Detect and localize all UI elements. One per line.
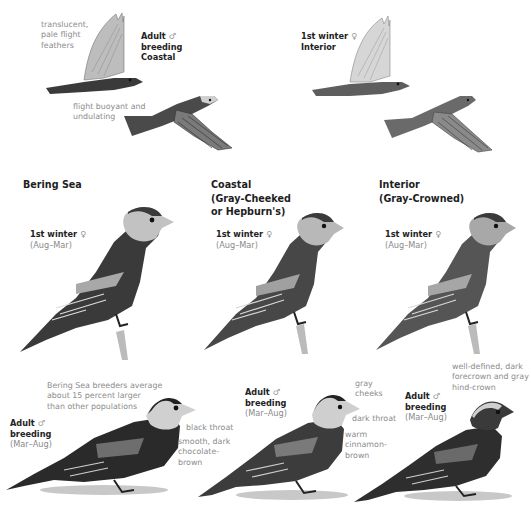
label-bering-adult-male-breeding: Adult ♂ breeding (Mar–Aug) (10, 418, 52, 450)
female-symbol-icon: ♀ (266, 229, 272, 239)
label-coastal-adult-male-breeding: Adult ♂ breeding (Mar–Aug) (245, 387, 287, 419)
label-interior-first-winter-female: 1st winter ♀ (Aug–Mar) (385, 229, 441, 250)
bird-illustration-interior-firstwinter-flight-spread (384, 90, 496, 156)
female-symbol-icon: ♀ (435, 229, 441, 239)
column-header-interior: Interior (Gray-Crowned) (379, 178, 464, 205)
male-symbol-icon: ♂ (38, 418, 45, 428)
column-header-bering-sea: Bering Sea (23, 178, 82, 192)
male-symbol-icon: ♂ (169, 31, 176, 41)
male-symbol-icon: ♂ (273, 387, 280, 397)
bird-illustration-bering-firstwinter (16, 202, 176, 362)
label-interior-adult-male-breeding: Adult ♂ breeding (Mar–Aug) (405, 391, 447, 423)
bird-illustration-interior-firstwinter-flight-upright (312, 16, 412, 96)
note-well-defined-forecrown: well-defined, dark forecrown and gray hi… (452, 362, 529, 393)
label-coastal-first-winter-female: 1st winter ♀ (Aug–Mar) (216, 229, 272, 250)
note-bering-size: Bering Sea breeders average about 15 per… (47, 381, 162, 412)
note-flight-buoyant: flight buoyant and undulating (73, 102, 146, 123)
male-symbol-icon: ♂ (433, 391, 440, 401)
note-translucent-flight-feathers: translucent, pale flight feathers (41, 20, 88, 51)
female-symbol-icon: ♀ (351, 31, 357, 41)
label-first-winter-female-interior: 1st winter ♀ Interior (301, 31, 357, 52)
label-bering-first-winter-female: 1st winter ♀ (Aug–Mar) (30, 229, 86, 250)
label-adult-male-breeding-coastal: Adult ♂ breeding Coastal (141, 31, 182, 63)
female-symbol-icon: ♀ (80, 229, 86, 239)
